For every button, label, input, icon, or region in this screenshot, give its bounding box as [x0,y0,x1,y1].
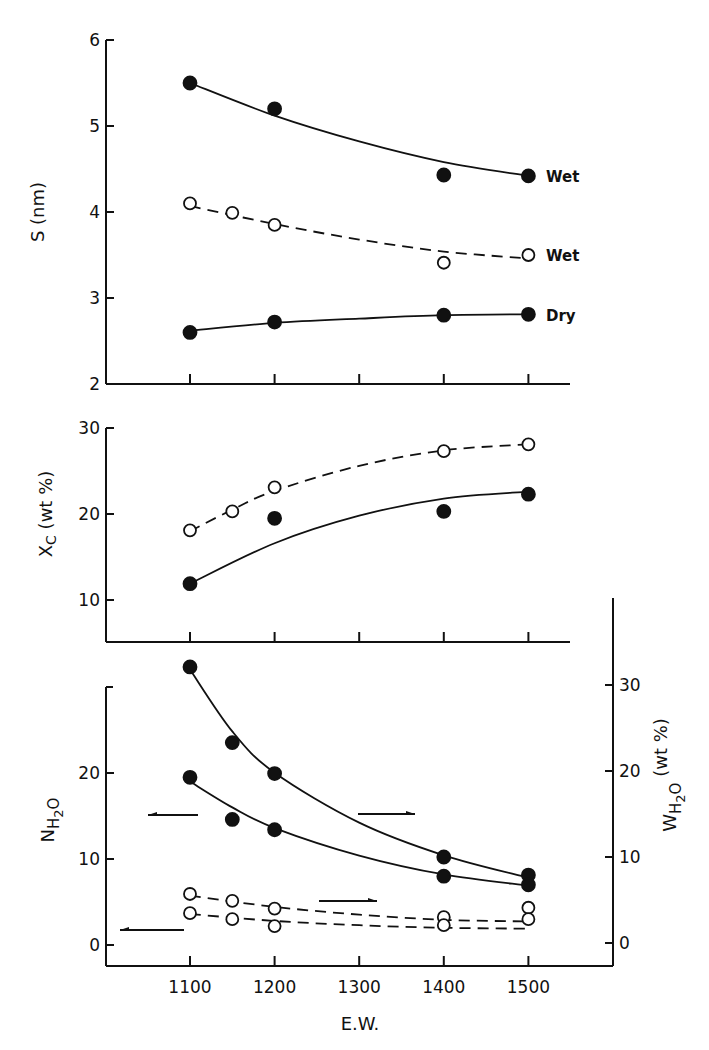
data-point-filled [184,577,197,590]
fit-curve [190,83,528,176]
fit-curve [190,314,528,330]
data-point-filled [184,660,197,673]
svg-text:NH2O: NH2O [37,798,66,843]
panel-water-curves [190,670,528,929]
data-point-open [522,902,534,914]
panel-xc-chart: 102030 XC (wt %) [35,418,570,642]
panel-s-ylabel: S (nm) [27,182,48,242]
n-label-2: 2 [51,809,66,817]
series-label-wet-open: Wet [546,247,579,265]
x-tick-label: 1500 [507,977,550,997]
y-tick-label: 3 [89,288,100,308]
xc-label-sub: C [43,535,59,545]
right-y-tick-label: 30 [619,675,641,695]
panel-water-right-ylabel: WH2O (wt %) [650,718,688,832]
x-axis-label: E.W. [341,1013,380,1034]
n-label-main: N [37,829,58,842]
fit-curve [190,444,528,531]
series-label-dry: Dry [546,307,576,325]
panel-water-left-ylabel: NH2O [37,798,66,843]
data-point-filled [437,309,450,322]
panel-s-points [184,77,535,339]
data-point-open [522,438,534,450]
y-tick-label: 20 [78,763,100,783]
x-tick-label: 1400 [422,977,465,997]
data-point-open [184,907,196,919]
data-point-open [226,505,238,517]
data-point-open [184,524,196,536]
panel-s-curves [190,83,528,331]
data-point-open [438,257,450,269]
panel-water-chart: 01020110012001300140015000102030 NH2O WH… [37,598,688,1034]
w-label-h: H [667,803,685,814]
x-tick-label: 1100 [168,977,211,997]
data-point-filled [268,823,281,836]
panel-xc-axes: 102030 [78,418,570,642]
y-tick-label: 10 [78,590,100,610]
data-point-filled [184,771,197,784]
data-point-filled [522,878,535,891]
n-label-h: H [45,818,63,829]
y-tick-label: 2 [89,374,100,394]
svg-text:WH2O (wt %): WH2O (wt %) [650,718,688,832]
xc-label-main: X [35,545,56,557]
fit-curve [190,896,528,922]
data-point-filled [226,736,239,749]
data-point-open [522,913,534,925]
data-point-open [184,197,196,209]
x-tick-label: 1200 [253,977,296,997]
data-point-filled [268,102,281,115]
n-label-o: O [45,798,63,810]
y-tick-label: 10 [78,849,100,869]
right-y-tick-label: 0 [619,933,630,953]
panel-s-chart: 23456 S (nm) Wet Wet Dry [27,30,579,394]
w-label-2: 2 [673,794,688,802]
y-tick-label: 0 [89,935,100,955]
figure: 23456 S (nm) Wet Wet Dry 102030 XC (wt %… [0,0,709,1050]
xc-label-unit: (wt %) [35,471,56,530]
panel-water-axes: 01020110012001300140015000102030 [78,598,640,997]
data-point-filled [184,326,197,339]
data-point-filled [184,77,197,90]
y-tick-label: 20 [78,504,100,524]
panel-water-points [184,660,535,932]
right-y-tick-label: 10 [619,847,641,867]
data-point-open [522,249,534,261]
data-point-filled [522,488,535,501]
data-point-filled [437,851,450,864]
w-label-main: W [659,814,680,832]
fit-curve [190,206,528,258]
y-tick-label: 6 [89,30,100,50]
right-y-tick-label: 20 [619,761,641,781]
data-point-open [226,895,238,907]
data-point-filled [522,169,535,182]
data-point-open [269,219,281,231]
svg-text:XC (wt %): XC (wt %) [35,471,59,558]
data-point-open [269,481,281,493]
data-point-open [226,913,238,925]
data-point-filled [437,870,450,883]
data-point-open [269,903,281,915]
panel-s-axes: 23456 [89,30,570,394]
panel-xc-curves [190,444,528,583]
data-point-filled [226,813,239,826]
data-point-filled [268,767,281,780]
data-point-filled [437,505,450,518]
fit-curve [190,670,528,878]
data-point-open [184,888,196,900]
data-point-filled [437,169,450,182]
panel-xc-points [184,438,535,590]
y-tick-label: 30 [78,418,100,438]
data-point-filled [268,316,281,329]
y-tick-label: 5 [89,116,100,136]
w-label-unit: (wt %) [650,718,671,777]
y-tick-label: 4 [89,202,100,222]
panel-xc-ylabel: XC (wt %) [35,471,59,558]
data-point-open [438,919,450,931]
data-point-open [269,920,281,932]
data-point-filled [268,512,281,525]
chart-svg: 23456 S (nm) Wet Wet Dry 102030 XC (wt %… [0,0,709,1050]
fit-curve [190,782,528,886]
data-point-open [226,207,238,219]
data-point-filled [522,308,535,321]
